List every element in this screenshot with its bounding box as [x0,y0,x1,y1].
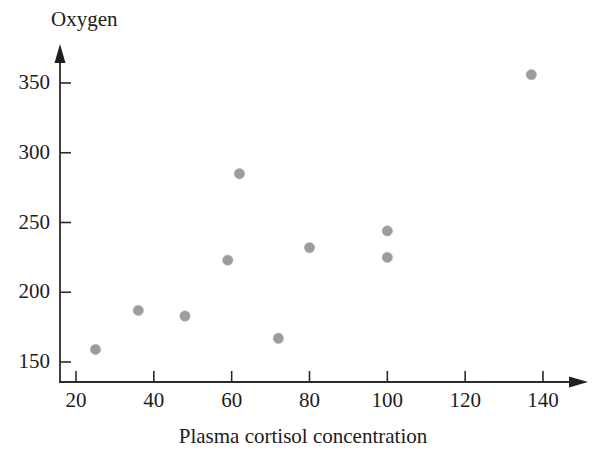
x-axis-tick-label: 100 [347,388,427,413]
y-axis-tick-label: 150 [0,349,50,374]
y-axis-tick-label: 250 [0,210,50,235]
x-axis-tick-label: 120 [425,388,505,413]
y-axis-tick-label: 300 [0,140,50,165]
data-point [273,333,283,343]
data-point [382,252,392,262]
data-point [526,69,536,79]
x-axis-arrow-icon [569,377,588,388]
x-axis-title: Plasma cortisol concentration [0,424,606,449]
data-point [90,344,100,354]
x-axis-tick-label: 60 [192,388,272,413]
x-axis-tick-label: 20 [36,388,116,413]
x-axis-tick-label: 140 [503,388,583,413]
y-axis-arrow-icon [55,44,66,63]
y-axis-tick-label: 200 [0,279,50,304]
data-point [133,305,143,315]
axes-group [55,44,589,388]
data-point [382,226,392,236]
y-axis-title: Oxygen [51,7,118,32]
y-axis-tick-label: 350 [0,70,50,95]
data-points-group [90,69,536,354]
data-point [234,168,244,178]
ticks-group [60,83,543,382]
scatter-plot-figure: 15020025030035020406080100120140 Oxygen … [0,0,606,455]
data-point [223,255,233,265]
data-point [180,311,190,321]
plot-canvas [0,0,606,455]
x-axis-tick-label: 40 [114,388,194,413]
x-axis-tick-label: 80 [270,388,350,413]
data-point [304,242,314,252]
